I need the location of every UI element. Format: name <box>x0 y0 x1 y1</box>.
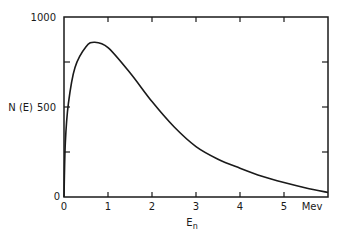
x-tick-label-2: 2 <box>149 201 155 212</box>
y-tick-label-500: 500 <box>37 102 56 113</box>
spectrum-curve <box>64 42 328 197</box>
x-axis-title: En <box>186 217 197 231</box>
x-tick-label-1: 1 <box>105 201 111 212</box>
x-tick-label-4: 4 <box>237 201 243 212</box>
x-axis-title-sub: n <box>193 222 198 231</box>
y-tick-label-0: 0 <box>54 191 60 202</box>
x-tick-label-0: 0 <box>61 201 67 212</box>
x-unit-label: Mev <box>302 201 323 212</box>
y-tick-label-1000: 1000 <box>31 12 56 23</box>
x-tick-label-3: 3 <box>193 201 199 212</box>
chart: 1000 500 N (E) 0 0 1 2 3 4 5 Mev En <box>0 0 342 236</box>
y-axis-title: N (E) <box>8 102 33 113</box>
x-tick-label-5: 5 <box>281 201 287 212</box>
